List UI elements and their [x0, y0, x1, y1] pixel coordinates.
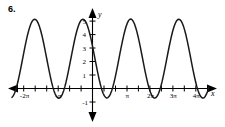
y-tick-label-5: 5	[83, 18, 87, 26]
x-tick-label-3pi: 3π	[170, 92, 178, 100]
y-tick-label-4: 4	[83, 31, 87, 39]
function-curve	[12, 19, 209, 98]
y-axis-label: y	[97, 10, 102, 19]
x-tick-label-neg-2pi: -2π	[20, 92, 30, 100]
x-tick-label-2pi: 2π	[147, 92, 155, 100]
y-tick-label-neg1: -1	[82, 99, 88, 107]
math-figure: 6.	[0, 0, 225, 127]
y-axis-down-arrow-icon	[89, 112, 97, 122]
y-tick-label-3: 3	[83, 45, 87, 53]
y-axis-up-arrow-icon	[89, 8, 97, 18]
x-tick-label-neg-pi: -π	[55, 92, 61, 100]
x-axis-label: x	[210, 89, 215, 98]
y-tick-label-1: 1	[83, 72, 87, 80]
y-tick-label-2: 2	[83, 58, 87, 66]
x-tick-label-4pi: 4π	[193, 92, 201, 100]
trigonometric-graph: 5 4 3 2 1 -1 -2π -π π 2π 3π 4π y x	[0, 0, 225, 127]
x-tick-label-pi: π	[126, 92, 130, 100]
